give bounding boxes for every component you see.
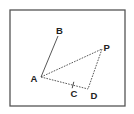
geometry-diagram: A B P C D [0,0,134,114]
segment-pd [88,49,102,89]
label-point-a: A [31,73,38,84]
segment-ab [41,36,58,77]
label-point-p: P [104,42,111,53]
diagram-frame [10,10,125,106]
segment-ap [41,49,102,77]
segment-ad [41,77,88,89]
label-point-c: C [71,88,78,99]
label-point-b: B [56,25,63,36]
label-point-d: D [91,90,98,101]
